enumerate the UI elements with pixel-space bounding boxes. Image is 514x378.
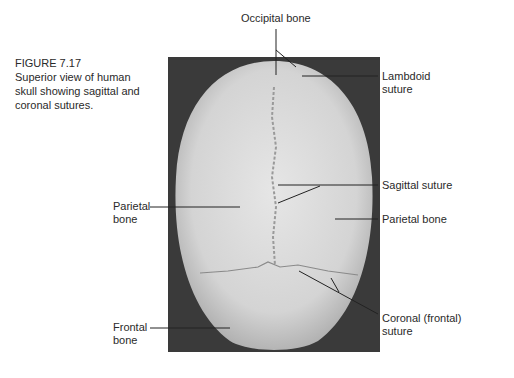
label-coronal-suture-1: Coronal (frontal) xyxy=(382,312,461,325)
label-parietal-bone-right: Parietal bone xyxy=(382,213,447,226)
label-coronal-suture-2: suture xyxy=(382,325,413,338)
label-sagittal-suture: Sagittal suture xyxy=(382,179,452,192)
skull-superior-view-image xyxy=(168,57,380,352)
figure-caption: FIGURE 7.17 Superior view of human skull… xyxy=(15,56,165,112)
label-occipital-bone: Occipital bone xyxy=(241,12,311,25)
caption-line-1: Superior view of human xyxy=(15,70,165,84)
label-parietal-bone-left-2: bone xyxy=(113,213,137,226)
label-lambdoid-suture-1: Lambdoid xyxy=(382,70,430,83)
label-frontal-bone-1: Frontal xyxy=(113,321,147,334)
label-lambdoid-suture-2: suture xyxy=(382,83,413,96)
figure-number: FIGURE 7.17 xyxy=(15,56,165,70)
caption-line-2: skull showing sagittal and xyxy=(15,84,165,98)
caption-line-3: coronal sutures. xyxy=(15,98,165,112)
label-parietal-bone-left-1: Parietal xyxy=(113,200,150,213)
skull-photo xyxy=(168,57,380,352)
label-frontal-bone-2: bone xyxy=(113,334,137,347)
